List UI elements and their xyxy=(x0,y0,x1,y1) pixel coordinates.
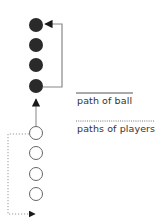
legend-players-label: paths of players xyxy=(77,123,155,134)
open-player-circle xyxy=(30,127,43,140)
drill-diagram xyxy=(0,0,161,222)
legend-ball-label: path of ball xyxy=(77,95,132,106)
open-player-circle xyxy=(30,147,43,160)
open-player-circle xyxy=(30,168,43,181)
filled-player-circle xyxy=(29,18,43,32)
filled-player-circle xyxy=(29,58,43,72)
filled-player-circle xyxy=(29,79,43,93)
ball-path-line xyxy=(43,24,62,87)
open-player-circle xyxy=(30,188,43,201)
filled-player-circle xyxy=(29,38,43,52)
